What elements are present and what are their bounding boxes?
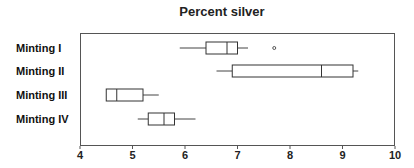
x-tick-label: 9 — [333, 149, 353, 161]
x-tick-label: 7 — [228, 149, 248, 161]
x-tick-label: 6 — [175, 149, 195, 161]
box — [232, 65, 353, 77]
x-tick-label: 8 — [280, 149, 300, 161]
x-tick-label: 10 — [385, 149, 405, 161]
box — [148, 113, 174, 125]
x-tick-label: 4 — [70, 149, 90, 161]
outlier-point — [273, 47, 276, 50]
box — [106, 89, 143, 101]
box — [206, 42, 238, 54]
boxplot-canvas — [0, 0, 414, 168]
x-tick-label: 5 — [123, 149, 143, 161]
